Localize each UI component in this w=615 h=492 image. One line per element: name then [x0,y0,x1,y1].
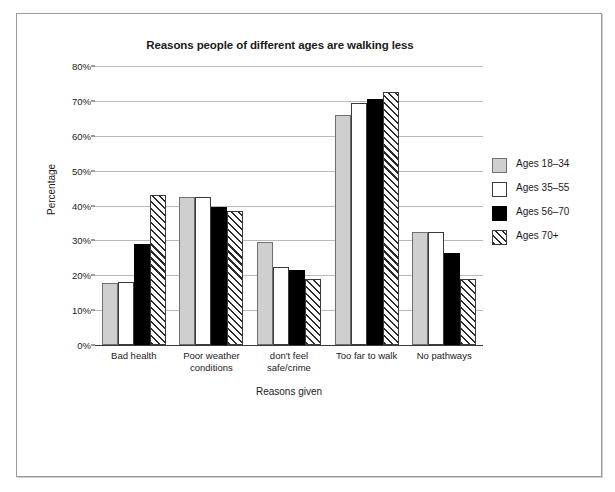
chart-title: Reasons people of different ages are wal… [70,39,490,51]
bar[interactable] [367,99,383,345]
y-axis-tick-label: 70% [57,95,91,106]
y-axis-tick-mark [91,275,95,276]
x-axis-line [95,345,483,346]
y-axis-tick-label: 80% [57,61,91,72]
bar[interactable] [335,115,351,345]
bar[interactable] [460,279,476,345]
bar[interactable] [351,103,367,345]
y-axis-tick-label: 60% [57,130,91,141]
bar[interactable] [150,195,166,345]
y-axis-tick-mark [91,205,95,206]
x-axis-category-label: Poor weatherconditions [166,350,256,374]
bar[interactable] [257,242,273,345]
y-axis-tick-label: 0% [57,340,91,351]
bar-group [412,66,476,345]
y-axis-tick-label: 50% [57,165,91,176]
bar[interactable] [289,270,305,345]
legend-item-label: Ages 35–55 [516,182,569,193]
page-root: Reasons people of different ages are wal… [0,0,615,492]
x-axis-category-label: Bad health [89,350,179,362]
bar[interactable] [383,92,399,345]
legend-item[interactable]: Ages 56–70 [492,203,607,227]
bar[interactable] [134,244,150,345]
x-axis-category-label: No pathways [399,350,489,362]
y-axis-tick-label: 30% [57,235,91,246]
bar[interactable] [211,207,227,345]
bar[interactable] [227,211,243,345]
y-axis-tick-mark [91,240,95,241]
bar-group [102,66,166,345]
bar[interactable] [118,282,134,345]
y-axis-tick-mark [91,100,95,101]
bar-group [335,66,399,345]
y-axis-tick-mark [91,135,95,136]
y-axis-tick-mark [91,310,95,311]
legend-item-label: Ages 18–34 [516,158,569,169]
y-axis-tick-labels: 0%10%20%30%40%50%60%70%80% [55,66,91,345]
legend-item-label: Ages 56–70 [516,206,569,217]
bar[interactable] [102,283,118,345]
y-axis-tick-label: 40% [57,200,91,211]
legend-item-label: Ages 70+ [516,230,559,241]
x-axis-title: Reasons given [95,386,483,397]
y-axis-tick-mark [91,66,95,67]
y-axis-tick-mark [91,170,95,171]
y-axis-tick-label: 20% [57,270,91,281]
bar-group [179,66,243,345]
bar[interactable] [195,197,211,345]
bar-group [257,66,321,345]
chart-legend: Ages 18–34Ages 35–55Ages 56–70Ages 70+ [492,155,607,251]
bar[interactable] [428,232,444,345]
bar[interactable] [179,197,195,345]
x-axis-category-label: Too far to walk [322,350,412,362]
x-axis-category-label: don't feelsafe/crime [244,350,334,374]
legend-item[interactable]: Ages 35–55 [492,179,607,203]
y-axis-tick-label: 10% [57,305,91,316]
hatched-swatch-icon [492,230,507,245]
bar[interactable] [412,232,428,345]
y-axis-tick-mark [91,345,95,346]
legend-item[interactable]: Ages 70+ [492,227,607,251]
legend-item[interactable]: Ages 18–34 [492,155,607,179]
cropped-caption-fragment [10,0,190,8]
bar[interactable] [305,279,321,345]
plot-area [95,66,483,345]
bar[interactable] [273,267,289,345]
black-swatch-icon [492,206,507,221]
white-swatch-icon [492,182,507,197]
bar[interactable] [444,253,460,345]
gray-swatch-icon [492,158,507,173]
